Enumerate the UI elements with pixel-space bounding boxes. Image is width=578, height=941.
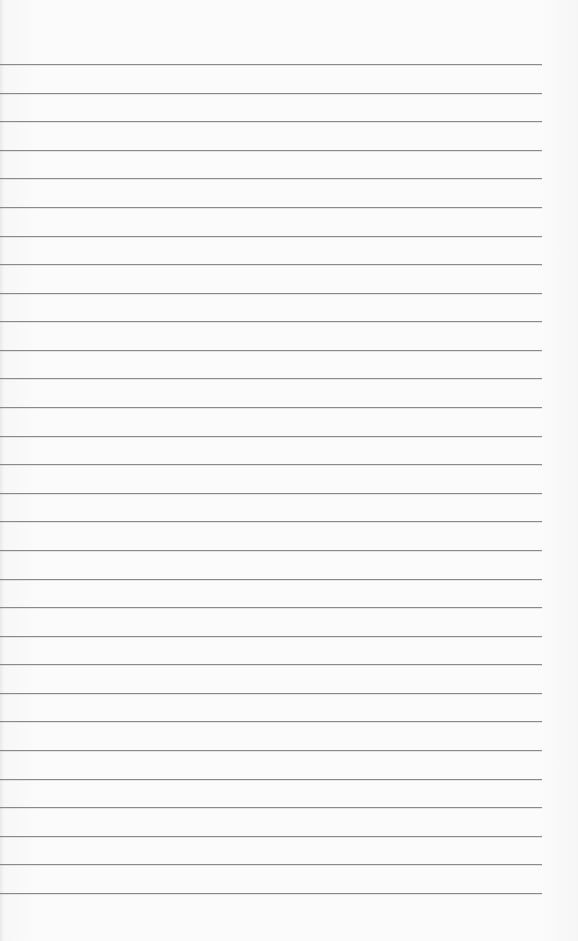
ruled-line [0, 493, 542, 494]
ruled-line [0, 178, 542, 179]
ruled-line [0, 64, 542, 65]
ruled-line [0, 464, 542, 465]
ruled-line [0, 121, 542, 122]
ruled-line [0, 721, 542, 722]
ruled-line [0, 321, 542, 322]
ruled-line [0, 636, 542, 637]
ruled-line [0, 550, 542, 551]
lined-paper-sheet [0, 0, 578, 941]
ruled-line [0, 521, 542, 522]
ruled-line [0, 207, 542, 208]
ruled-line [0, 264, 542, 265]
ruled-line [0, 93, 542, 94]
ruled-line [0, 693, 542, 694]
ruled-line [0, 807, 542, 808]
ruled-line [0, 378, 542, 379]
ruled-line [0, 579, 542, 580]
ruled-line [0, 779, 542, 780]
ruled-line [0, 664, 542, 665]
ruled-line [0, 750, 542, 751]
ruled-line [0, 236, 542, 237]
ruled-line [0, 407, 542, 408]
ruled-line [0, 864, 542, 865]
ruled-line [0, 150, 542, 151]
ruled-line [0, 293, 542, 294]
ruled-line [0, 607, 542, 608]
ruled-line [0, 436, 542, 437]
ruled-line [0, 350, 542, 351]
ruled-line [0, 893, 542, 894]
ruled-line [0, 836, 542, 837]
